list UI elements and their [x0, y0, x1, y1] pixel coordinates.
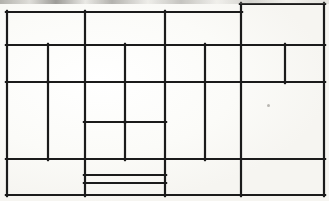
- diagram-canvas: [0, 0, 329, 201]
- ink-line-group: [6, 3, 325, 196]
- rectangle-dissection-drawing: [0, 0, 329, 201]
- dust-speck-artifact: [267, 104, 270, 107]
- top-edge-scan-artifact: [0, 0, 329, 4]
